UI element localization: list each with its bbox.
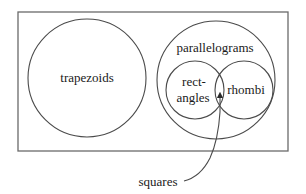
parallelograms-label: parallelograms [176, 40, 253, 55]
rectangles-label-line1: rect- [182, 74, 206, 89]
squares-callout-arrow [184, 95, 220, 181]
rhombi-label: rhombi [227, 82, 265, 97]
trapezoids-label: trapezoids [60, 70, 113, 85]
squares-label: squares [139, 174, 178, 189]
parallelograms-circle [157, 21, 275, 139]
venn-diagram: trapezoids parallelograms rect- angles r… [0, 0, 306, 194]
rectangles-label-line2: angles [176, 90, 209, 105]
